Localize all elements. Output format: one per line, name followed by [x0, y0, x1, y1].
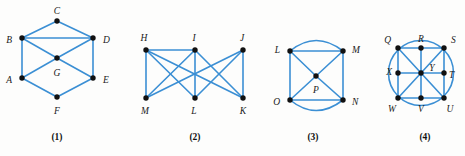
graph-vertex-B — [19, 35, 24, 40]
graph-edge-F-E — [57, 78, 93, 97]
graph-vertex-Y — [418, 70, 423, 75]
graph-vertex-label-M: M — [140, 106, 150, 116]
graph-edge-G-E — [57, 58, 93, 78]
graph-vertex-label-J: J — [240, 33, 245, 43]
graph-vertex-label-W: W — [388, 104, 397, 114]
graph-vertex-label-B: B — [6, 35, 12, 45]
graph-edge-P-N — [316, 76, 343, 100]
graph-caption-4: (4) — [419, 132, 430, 143]
graph-vertex-S — [441, 45, 446, 50]
graph-edge-A-G — [22, 58, 57, 78]
graph-vertex-label-Q: Q — [384, 35, 391, 45]
graph-3: LMPON(3) — [273, 41, 361, 144]
graph-caption-2: (2) — [189, 132, 200, 143]
graph-edge-P-O — [290, 76, 316, 100]
graph-vertex-F — [54, 94, 59, 99]
graph-edge-Y-W — [398, 73, 421, 98]
graph-vertex-label-T: T — [449, 70, 455, 80]
graph-vertex-C — [54, 18, 59, 23]
graph-vertex-U — [441, 95, 446, 100]
graph-vertex-label-N: N — [351, 97, 359, 107]
graph-vertex-label-I: I — [191, 33, 196, 43]
graph-vertex-label-D: D — [102, 35, 110, 45]
graph-vertex-label-A: A — [5, 75, 12, 85]
graph-vertex-H — [143, 47, 148, 52]
graph-vertex-A — [19, 75, 24, 80]
graph-vertex-label-U: U — [447, 104, 455, 114]
graph-vertex-label-G: G — [54, 68, 61, 78]
graph-vertex-V — [418, 95, 423, 100]
graph-2: HIJMLK(2) — [140, 33, 247, 143]
graph-edge-B-G — [22, 38, 57, 58]
graph-vertex-Q — [395, 45, 400, 50]
graph-vertex-K — [240, 95, 245, 100]
graph-vertex-P — [313, 73, 318, 78]
graph-vertex-X — [395, 70, 400, 75]
graph-vertex-N — [340, 97, 345, 102]
graph-edge-Y-U — [421, 73, 444, 98]
graph-vertex-W — [395, 95, 400, 100]
graph-edge-A-F — [22, 78, 57, 97]
graph-vertex-I — [192, 47, 197, 52]
graph-vertex-label-F: F — [53, 106, 60, 116]
graph-caption-1: (1) — [51, 132, 62, 143]
graph-4: QRSXYTWVU(4) — [384, 34, 456, 143]
graph-vertex-label-S: S — [451, 35, 456, 45]
graph-vertex-label-O: O — [273, 97, 280, 107]
graph-vertex-label-H: H — [140, 33, 149, 43]
graph-vertex-label-L: L — [274, 45, 280, 55]
graphs-layer: CBDGAEF(1)HIJMLK(2)LMPON(3)QRSXYTWVU(4) — [5, 6, 456, 143]
graph-vertex-label-Y: Y — [429, 63, 436, 73]
graph-vertex-T — [441, 70, 446, 75]
graphs-canvas: CBDGAEF(1)HIJMLK(2)LMPON(3)QRSXYTWVU(4) — [0, 0, 465, 156]
graph-vertex-O — [287, 97, 292, 102]
graph-vertex-R — [418, 45, 423, 50]
graph-vertex-label-M: M — [351, 45, 361, 55]
graph-vertex-E — [90, 75, 95, 80]
graph-vertex-label-R: R — [417, 34, 424, 44]
graph-vertex-L — [287, 48, 292, 53]
graph-edge-bottom-arc — [290, 100, 343, 111]
graph-vertex-label-E: E — [102, 75, 109, 85]
graph-vertex-label-L: L — [190, 106, 196, 116]
graph-vertex-label-P: P — [312, 85, 319, 95]
graph-edge-top-arc — [290, 41, 343, 52]
graph-vertex-G — [54, 55, 59, 60]
graph-edge-L-P — [290, 51, 316, 76]
graph-edge-C-D — [57, 21, 93, 38]
graph-edge-M-P — [316, 51, 343, 76]
graph-edge-Q-Y — [398, 48, 421, 73]
graph-vertex-J — [240, 47, 245, 52]
graph-1: CBDGAEF(1) — [5, 6, 110, 143]
graph-edge-B-C — [22, 21, 57, 38]
graph-vertex-label-K: K — [239, 106, 247, 116]
graph-edge-G-D — [57, 38, 93, 58]
graph-vertex-label-C: C — [54, 6, 61, 16]
graph-vertex-M — [340, 48, 345, 53]
graph-vertex-L — [192, 95, 197, 100]
graph-vertex-label-X: X — [385, 67, 393, 77]
graph-figure-panel: CBDGAEF(1)HIJMLK(2)LMPON(3)QRSXYTWVU(4) — [0, 0, 465, 156]
graph-caption-3: (3) — [307, 132, 318, 143]
graph-vertex-D — [90, 35, 95, 40]
graph-vertex-M — [143, 95, 148, 100]
